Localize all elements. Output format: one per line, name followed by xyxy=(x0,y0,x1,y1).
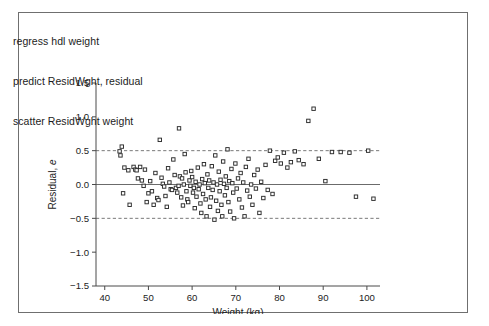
data-point xyxy=(234,162,237,165)
data-point xyxy=(199,202,202,205)
data-point xyxy=(182,183,185,186)
data-point xyxy=(173,173,176,176)
data-point xyxy=(148,179,151,182)
data-point xyxy=(120,145,123,148)
data-point xyxy=(221,215,224,218)
data-point xyxy=(230,167,233,170)
data-point xyxy=(142,184,145,187)
data-point xyxy=(262,196,265,199)
data-point xyxy=(201,192,204,195)
data-point xyxy=(226,148,229,151)
data-point xyxy=(119,154,122,157)
data-point xyxy=(282,151,285,154)
data-point xyxy=(244,165,247,168)
data-point xyxy=(249,183,252,186)
data-point xyxy=(191,191,194,194)
stata-command-listing: regress hdl weight predict ResidWght, re… xyxy=(13,9,313,141)
data-point xyxy=(240,206,243,209)
data-point xyxy=(198,183,201,186)
data-point xyxy=(235,187,238,190)
y-tick-label: −1.0 xyxy=(70,247,89,258)
data-point xyxy=(170,188,173,191)
data-point xyxy=(302,163,305,166)
data-point xyxy=(197,188,200,191)
data-point xyxy=(172,158,175,161)
data-point xyxy=(221,160,224,163)
data-point xyxy=(209,196,212,199)
data-point xyxy=(372,197,375,200)
data-point xyxy=(180,196,183,199)
data-point xyxy=(354,195,357,198)
data-point xyxy=(207,179,210,182)
data-point xyxy=(145,200,148,203)
data-point xyxy=(165,205,168,208)
x-tick-label: 80 xyxy=(274,292,285,303)
x-tick-label: 100 xyxy=(359,292,375,303)
data-point xyxy=(205,215,208,218)
data-point xyxy=(208,205,211,208)
data-point xyxy=(252,173,255,176)
data-point xyxy=(213,218,216,221)
data-point xyxy=(339,150,342,153)
data-point xyxy=(214,199,217,202)
data-point xyxy=(214,154,217,157)
data-point xyxy=(193,206,196,209)
y-tick-label: −0.5 xyxy=(70,213,89,224)
data-point xyxy=(186,200,189,203)
data-point xyxy=(212,181,215,184)
x-tick-label: 90 xyxy=(318,292,329,303)
data-point xyxy=(248,195,251,198)
data-point xyxy=(276,156,279,159)
data-point xyxy=(135,169,138,172)
data-point xyxy=(181,204,184,207)
data-point xyxy=(190,175,193,178)
data-point xyxy=(154,171,157,174)
data-point xyxy=(324,179,327,182)
data-point xyxy=(147,192,150,195)
x-tick-label: 50 xyxy=(143,292,154,303)
data-point xyxy=(330,150,333,153)
data-point xyxy=(188,179,191,182)
data-point xyxy=(121,192,124,195)
data-point xyxy=(266,188,269,191)
data-point xyxy=(231,181,234,184)
data-point xyxy=(367,149,370,152)
data-point xyxy=(210,165,213,168)
data-point xyxy=(162,185,165,188)
data-point xyxy=(138,165,141,168)
data-point xyxy=(177,184,180,187)
data-point xyxy=(160,176,163,179)
data-point xyxy=(242,181,245,184)
data-point xyxy=(273,159,276,162)
data-point xyxy=(168,181,171,184)
data-point xyxy=(185,190,188,193)
data-point xyxy=(279,162,282,165)
data-point xyxy=(196,166,199,169)
data-point xyxy=(123,166,126,169)
data-point xyxy=(194,180,197,183)
data-point xyxy=(218,190,221,193)
data-point xyxy=(247,157,250,160)
data-point xyxy=(271,192,274,195)
data-point xyxy=(286,166,289,169)
data-point xyxy=(348,151,351,154)
y-tick-label: 0.5 xyxy=(76,145,89,156)
data-point xyxy=(225,186,228,189)
data-point xyxy=(200,177,203,180)
data-point xyxy=(128,203,131,206)
data-point xyxy=(200,211,203,214)
data-point xyxy=(190,169,193,172)
data-point xyxy=(220,203,223,206)
data-point xyxy=(289,160,292,163)
data-point xyxy=(245,189,248,192)
data-point xyxy=(189,184,192,187)
data-point xyxy=(184,171,187,174)
data-point xyxy=(231,191,234,194)
x-tick-label: 70 xyxy=(230,292,241,303)
data-point xyxy=(256,168,259,171)
data-point xyxy=(227,200,230,203)
data-point xyxy=(211,188,214,191)
code-line-1: regress hdl weight xyxy=(13,35,313,48)
data-point xyxy=(203,181,206,184)
data-point xyxy=(228,210,231,213)
